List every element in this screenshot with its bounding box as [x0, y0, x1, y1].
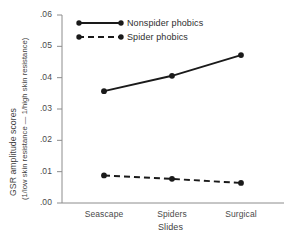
x-axis-tick-label: Seascape: [69, 210, 139, 219]
legend-label-nonspider-phobics: Nonspider phobics: [127, 18, 203, 28]
legend-marker-nonspider-phobics-left: [76, 20, 81, 25]
legend-marker-nonspider-phobics-right: [118, 20, 123, 25]
chart-figure: .06.05.04.03.02.01.00 SeascapeSpidersSur…: [0, 0, 289, 240]
data-point-nonspider-phobics-seascape: [101, 88, 107, 94]
legend-marker-spider-phobics-right: [118, 34, 123, 39]
y-axis-title-line2: (1/low skin resistance — 1/high skin res…: [20, 38, 29, 200]
y-axis-ticks: [57, 15, 62, 203]
data-point-nonspider-phobics-surgical: [238, 52, 244, 58]
y-axis-tick-label: .02: [26, 135, 52, 144]
y-axis-tick-label: .00: [26, 198, 52, 207]
data-point-spider-phobics-spiders: [169, 176, 175, 182]
y-axis-tick-label: .06: [26, 10, 52, 19]
legend-marks: [76, 20, 123, 39]
y-axis-tick-label: .03: [26, 104, 52, 113]
y-axis-tick-label: .04: [26, 73, 52, 82]
data-point-spider-phobics-seascape: [101, 173, 107, 179]
y-axis-title-units: (1/low skin resistance — 1/high skin res…: [21, 38, 30, 200]
legend-marker-spider-phobics-left: [76, 34, 81, 39]
x-axis-tick-label: Surgical: [206, 210, 276, 219]
legend-label-spider-phobics: Spider phobics: [127, 32, 188, 42]
data-point-nonspider-phobics-spiders: [169, 73, 175, 79]
data-point-spider-phobics-surgical: [238, 180, 244, 186]
x-axis-title: Slides: [26, 222, 289, 232]
y-axis-tick-label: .05: [26, 41, 52, 50]
y-axis-title: GSR amplitude scores: [8, 108, 18, 196]
y-axis-tick-label: .01: [26, 167, 52, 176]
x-axis-tick-label: Spiders: [137, 210, 207, 219]
y-axis-title-line1: GSR amplitude scores: [8, 108, 18, 196]
data-series-layer: [101, 52, 244, 186]
